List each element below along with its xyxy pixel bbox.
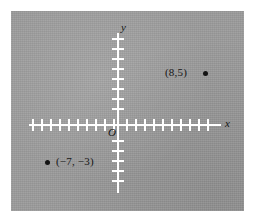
y-axis-label: y (121, 22, 126, 33)
axes-layer (0, 0, 256, 224)
point-label-neg7-neg3: (−7, −3) (56, 156, 94, 167)
point-label-8-5: (8,5) (165, 67, 187, 78)
origin-label: O (108, 127, 116, 138)
x-axis-label: x (225, 118, 230, 129)
plotted-point-neg7-neg3 (45, 160, 50, 165)
figure-canvas: y x O (8,5) (−7, −3) (0, 0, 256, 224)
plotted-point-8-5 (203, 71, 208, 76)
